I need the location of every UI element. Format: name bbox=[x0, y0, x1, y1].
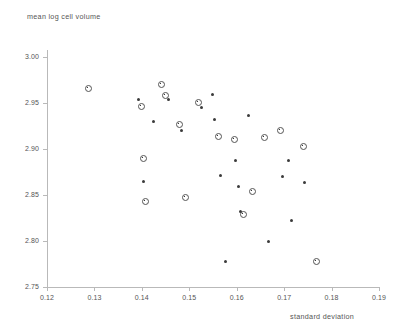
scatter-point-core bbox=[87, 87, 88, 88]
x-tick-mark bbox=[94, 287, 95, 291]
y-tick-mark bbox=[43, 149, 47, 150]
x-tick-label: 0.15 bbox=[176, 294, 202, 302]
scatter-point-core bbox=[164, 94, 165, 95]
y-tick-label: 2.75 bbox=[13, 283, 39, 291]
scatter-point-core bbox=[242, 213, 243, 214]
y-tick-label: 2.95 bbox=[13, 99, 39, 107]
x-tick-mark bbox=[284, 287, 285, 291]
scatter-point bbox=[303, 181, 306, 184]
scatter-point bbox=[152, 120, 155, 123]
x-tick-mark bbox=[189, 287, 190, 291]
x-tick-mark bbox=[142, 287, 143, 291]
y-axis-title: mean log cell volume bbox=[27, 12, 101, 21]
y-tick-mark bbox=[43, 57, 47, 58]
x-axis-line bbox=[47, 287, 380, 288]
scatter-plot: mean log cell volume 3.002.952.902.852.8… bbox=[0, 0, 401, 330]
x-tick-label: 0.12 bbox=[34, 294, 60, 302]
scatter-point bbox=[234, 159, 237, 162]
y-tick-mark bbox=[43, 103, 47, 104]
scatter-point bbox=[138, 103, 145, 110]
scatter-point bbox=[180, 129, 183, 132]
scatter-point bbox=[85, 85, 92, 92]
scatter-point bbox=[237, 185, 240, 188]
scatter-point bbox=[277, 127, 284, 134]
y-tick-mark bbox=[43, 241, 47, 242]
y-tick-label: 2.90 bbox=[13, 145, 39, 153]
scatter-point bbox=[195, 99, 202, 106]
scatter-point bbox=[261, 134, 268, 141]
scatter-point-core bbox=[263, 136, 264, 137]
scatter-point-core bbox=[197, 101, 198, 102]
x-tick-label: 0.16 bbox=[224, 294, 250, 302]
scatter-point bbox=[287, 159, 290, 162]
scatter-point bbox=[313, 258, 320, 265]
scatter-point bbox=[215, 133, 222, 140]
scatter-point bbox=[290, 219, 293, 222]
scatter-point bbox=[140, 155, 147, 162]
scatter-point-core bbox=[233, 138, 234, 139]
scatter-point bbox=[213, 118, 216, 121]
scatter-point-core bbox=[315, 260, 316, 261]
scatter-point bbox=[158, 81, 165, 88]
scatter-point bbox=[142, 180, 145, 183]
y-tick-mark bbox=[43, 195, 47, 196]
scatter-point bbox=[137, 98, 140, 101]
x-tick-label: 0.13 bbox=[81, 294, 107, 302]
x-tick-mark bbox=[379, 287, 380, 291]
y-tick-label: 3.00 bbox=[13, 53, 39, 61]
x-tick-label: 0.14 bbox=[129, 294, 155, 302]
scatter-point-core bbox=[142, 157, 143, 158]
x-tick-label: 0.19 bbox=[366, 294, 392, 302]
scatter-point-core bbox=[160, 83, 161, 84]
scatter-point bbox=[167, 98, 170, 101]
scatter-point-core bbox=[140, 105, 141, 106]
scatter-point bbox=[224, 260, 227, 263]
scatter-point-core bbox=[144, 200, 145, 201]
scatter-point-core bbox=[279, 129, 280, 130]
scatter-point bbox=[176, 121, 183, 128]
scatter-point bbox=[219, 174, 222, 177]
scatter-point bbox=[231, 136, 238, 143]
scatter-point bbox=[200, 106, 203, 109]
scatter-point bbox=[142, 198, 149, 205]
y-tick-label: 2.80 bbox=[13, 237, 39, 245]
scatter-point bbox=[247, 114, 250, 117]
x-tick-mark bbox=[332, 287, 333, 291]
x-axis-title: standard deviation bbox=[290, 312, 354, 321]
scatter-point bbox=[211, 93, 214, 96]
x-tick-mark bbox=[237, 287, 238, 291]
x-tick-label: 0.17 bbox=[271, 294, 297, 302]
x-tick-label: 0.18 bbox=[319, 294, 345, 302]
x-tick-mark bbox=[47, 287, 48, 291]
scatter-point bbox=[240, 211, 247, 218]
scatter-point bbox=[182, 194, 189, 201]
scatter-point bbox=[300, 143, 307, 150]
scatter-point bbox=[281, 175, 284, 178]
scatter-point-core bbox=[251, 190, 252, 191]
y-axis-line bbox=[47, 50, 48, 288]
scatter-point-core bbox=[217, 135, 218, 136]
scatter-point bbox=[267, 240, 270, 243]
scatter-point-core bbox=[184, 196, 185, 197]
scatter-point-core bbox=[302, 145, 303, 146]
scatter-point-core bbox=[178, 123, 179, 124]
scatter-point bbox=[249, 188, 256, 195]
y-tick-label: 2.85 bbox=[13, 191, 39, 199]
